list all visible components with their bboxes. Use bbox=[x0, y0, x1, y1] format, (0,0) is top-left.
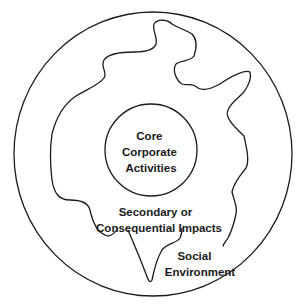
social-label-line-2: Environment bbox=[165, 266, 235, 278]
core-label-line-3: Activities bbox=[125, 162, 176, 174]
diagram-canvas: Core Corporate Activities Secondary or C… bbox=[0, 0, 301, 304]
social-label-line-1: Social bbox=[177, 250, 211, 262]
corporate-impact-diagram: Core Corporate Activities Secondary or C… bbox=[0, 0, 301, 304]
social-label: Social Environment bbox=[165, 250, 235, 278]
core-label-line-2: Corporate bbox=[122, 146, 177, 158]
core-label-line-1: Core bbox=[136, 130, 162, 142]
secondary-label-line-2: Consequential Impacts bbox=[96, 222, 222, 234]
secondary-label: Secondary or Consequential Impacts bbox=[96, 206, 222, 234]
secondary-label-line-1: Secondary or bbox=[119, 206, 193, 218]
